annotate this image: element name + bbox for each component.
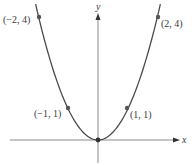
point-neg2-4	[37, 15, 41, 19]
y-axis-label: y	[95, 1, 101, 12]
label-2-4: (2, 4)	[161, 18, 183, 30]
point-2-4	[156, 15, 160, 19]
y-axis-arrow-icon	[96, 13, 101, 20]
label-neg1-1: (−1, 1)	[34, 108, 61, 120]
label-neg2-4: (−2, 4)	[3, 14, 30, 26]
x-axis-label: x	[181, 134, 187, 145]
point-neg1-1	[66, 106, 70, 110]
parabola-chart: (−2, 4) (−1, 1) (1, 1) (2, 4) x y	[0, 0, 192, 165]
x-axis-arrow-icon	[173, 138, 180, 143]
label-1-1: (1, 1)	[130, 109, 152, 121]
point-origin	[96, 138, 101, 143]
point-1-1	[125, 106, 129, 110]
